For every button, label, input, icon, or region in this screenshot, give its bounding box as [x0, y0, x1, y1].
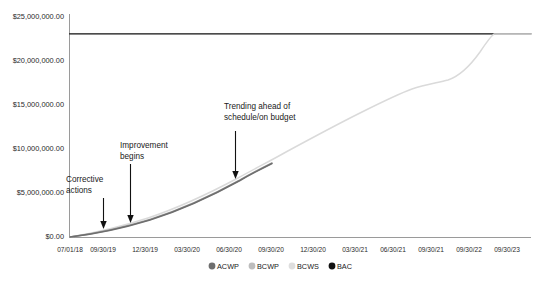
annotation-text-line: actions	[66, 186, 92, 195]
y-tick-label: $0.00	[46, 232, 65, 241]
legend-swatch-bac	[329, 263, 336, 270]
annotation-corrective-actions: Corrective actions	[66, 175, 107, 229]
y-tick-label: $20,000,000.00	[13, 56, 64, 65]
annotation-trending-ahead: Trending ahead of schedule/on budget	[224, 102, 296, 179]
x-tick-label: 03/30/20	[174, 246, 200, 253]
y-tick-label: $15,000,000.00	[13, 100, 64, 109]
y-axis-labels: $25,000,000.00 $20,000,000.00 $15,000,00…	[13, 12, 64, 241]
x-tick-label: 06/30/20	[216, 246, 242, 253]
chart-legend: ACWP BCWP BCWS BAC	[209, 262, 352, 271]
legend-label-bcws: BCWS	[297, 262, 319, 271]
chart-canvas: $25,000,000.00 $20,000,000.00 $15,000,00…	[0, 0, 554, 282]
annotation-arrow-head	[100, 221, 106, 229]
legend-label-acwp: ACWP	[217, 262, 239, 271]
annotation-improvement-begins: Improvement begins	[120, 141, 169, 223]
legend-swatch-bcwp	[249, 263, 256, 270]
series-line-bcws	[70, 34, 531, 237]
y-tick-label: $25,000,000.00	[13, 12, 64, 21]
annotation-text-line: Trending ahead of	[224, 102, 291, 111]
x-tick-label: 09/30/20	[258, 246, 284, 253]
annotation-text-line: schedule/on budget	[224, 113, 296, 122]
legend-swatch-acwp	[209, 263, 216, 270]
annotation-arrow-head	[127, 215, 133, 223]
x-tick-label: 09/30/22	[456, 246, 482, 253]
x-axis-labels: 07/01/18 09/30/19 12/30/19 03/30/20 06/3…	[57, 246, 520, 253]
x-tick-label: 09/30/23	[494, 246, 520, 253]
annotation-text-line: Improvement	[120, 141, 169, 150]
annotation-text-line: begins	[120, 152, 144, 161]
legend-label-bac: BAC	[337, 262, 352, 271]
x-tick-label: 09/30/19	[90, 246, 116, 253]
x-tick-label: 07/01/18	[57, 246, 83, 253]
x-tick-label: 12/30/19	[132, 246, 158, 253]
x-tick-label: 12/30/20	[300, 246, 326, 253]
x-tick-label: 09/30/21	[418, 246, 444, 253]
legend-label-bcwp: BCWP	[257, 262, 279, 271]
y-tick-label: $10,000,000.00	[13, 144, 64, 153]
evm-s-curve-chart: $25,000,000.00 $20,000,000.00 $15,000,00…	[0, 0, 554, 282]
y-tick-label: $5,000,000.00	[17, 188, 64, 197]
x-tick-label: 03/30/21	[342, 246, 368, 253]
x-tick-label: 06/30/21	[380, 246, 406, 253]
annotation-text-line: Corrective	[66, 175, 104, 184]
legend-swatch-bcws	[289, 263, 296, 270]
